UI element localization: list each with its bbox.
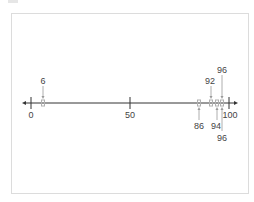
right-arrow-icon: [234, 101, 238, 105]
arrow-down-icon: [210, 96, 213, 99]
point-86: 86: [194, 100, 204, 131]
arrow-down-icon: [42, 96, 45, 99]
arrow-up-icon: [198, 107, 201, 110]
number-line-diagram: 0 50 100 6 86 92 94 96: [0, 0, 254, 202]
arrow-up-icon: [221, 107, 224, 110]
tick-100: 100: [222, 97, 237, 120]
arrow-up-icon: [216, 107, 219, 110]
tick-label: 0: [28, 110, 33, 120]
tick-label: 100: [222, 110, 237, 120]
point-label: 6: [40, 76, 45, 86]
tick-0: 0: [28, 97, 33, 120]
tick-50: 50: [125, 97, 135, 120]
point-label: 86: [194, 121, 204, 131]
left-arrow-icon: [22, 101, 26, 105]
point-label: 96: [217, 133, 227, 143]
point-label: 96: [217, 65, 227, 75]
point-label: 92: [205, 76, 215, 86]
point-92: 92: [205, 76, 215, 106]
point-label: 94: [211, 121, 221, 131]
arrow-down-icon: [221, 96, 224, 99]
point-6: 6: [40, 76, 45, 106]
tick-label: 50: [125, 110, 135, 120]
